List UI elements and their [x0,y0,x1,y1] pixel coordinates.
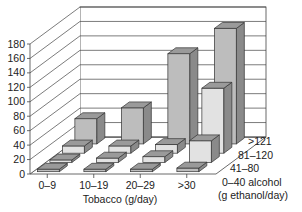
bar-front-face [189,141,211,163]
bar-front-face [50,160,72,163]
bar-front-face [84,169,106,172]
x-axis-ticks: 0–910–1920–29>30 [38,174,195,191]
bar [168,48,198,144]
bar-front-face [37,169,59,172]
bar [189,135,219,163]
bar-front-face [62,146,84,153]
y-tick-label: 80 [13,110,25,122]
y-tick-label: 60 [13,124,25,136]
depth-label: >121 [248,135,272,147]
bar [75,113,105,144]
bar-front-face [143,157,165,163]
x-tick-label: 0–9 [38,179,56,191]
bar-side-face [236,22,244,143]
bar [121,102,151,144]
y-axis-ticks: 020406080100120140160180 [7,38,30,180]
y-tick-label: 100 [7,95,25,107]
y-tick-label: 180 [7,38,25,50]
bar-front-face [130,169,152,172]
bar-side-face [190,48,198,144]
bar-front-face [177,168,199,172]
y-tick-label: 40 [13,139,25,151]
x-tick-label: >30 [178,179,196,191]
depth-label: 0–40 alcohol [222,176,282,188]
bar-front-face [121,108,143,144]
bar-front-face [168,54,190,144]
depth-label: 81–120 [238,149,273,161]
x-tick-label: 20–29 [126,179,155,191]
y-tick-label: 0 [19,168,25,180]
y-tick-label: 20 [13,153,25,165]
tobacco-alcohol-3d-bar-chart: 020406080100120140160180 0–910–1920–29>3… [0,0,302,212]
y-tick-label: 120 [7,81,25,93]
x-axis-title: Tobacco (g/day) [83,193,158,205]
x-tick-label: 10–19 [79,179,108,191]
bar-side-face [143,102,151,144]
bar-side-face [224,82,232,153]
y-tick-label: 140 [7,66,25,78]
depth-label: 41–80 [230,162,259,174]
y-tick-label: 160 [7,52,25,64]
bar-front-face [96,158,118,162]
depth-axis-title: (g ethanol/day) [218,189,288,201]
